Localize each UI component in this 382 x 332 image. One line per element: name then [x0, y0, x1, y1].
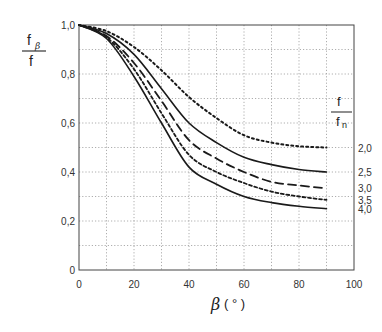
svg-text:f: f	[27, 32, 31, 48]
legend-label: 4,0	[358, 204, 372, 215]
y-tick-label: 0,6	[61, 118, 75, 129]
y-tick-label: 0,2	[61, 216, 75, 227]
svg-text:n: n	[342, 120, 347, 130]
svg-text:f: f	[337, 94, 341, 109]
y-tick-label: 0,4	[61, 167, 75, 178]
legend-label: 3,0	[358, 183, 372, 194]
legend-label: 2,0	[358, 143, 372, 154]
x-tick-label: 0	[76, 279, 82, 290]
curves	[79, 25, 327, 209]
x-tick-label: 40	[183, 279, 195, 290]
svg-text:f: f	[29, 53, 33, 69]
x-axis-ticks: 020406080100	[76, 279, 363, 290]
y-axis-ticks: 00,20,40,60,81,0	[61, 20, 75, 276]
chart: 020406080100 00,20,40,60,81,0 2,02,53,03…	[0, 0, 382, 332]
svg-text:β: β	[210, 295, 220, 314]
x-tick-label: 100	[346, 279, 363, 290]
y-tick-label: 1,0	[61, 20, 75, 31]
y-axis-label: f β f	[22, 32, 46, 69]
svg-text:β: β	[34, 41, 40, 51]
legend-label: 2,5	[358, 167, 372, 178]
x-tick-label: 20	[128, 279, 140, 290]
y-tick-label: 0,8	[61, 69, 75, 80]
x-tick-label: 80	[293, 279, 305, 290]
svg-text:f: f	[336, 114, 340, 129]
curve-4-0	[79, 25, 327, 209]
y-tick-label: 0	[69, 265, 75, 276]
legend-title: f f n	[331, 94, 352, 130]
curve-3-5	[79, 25, 327, 200]
x-tick-label: 60	[238, 279, 250, 290]
legend: 2,02,53,03,54,0	[358, 143, 372, 215]
svg-text:( ° ): ( ° )	[224, 296, 245, 311]
x-axis-label: β ( ° )	[210, 295, 245, 314]
